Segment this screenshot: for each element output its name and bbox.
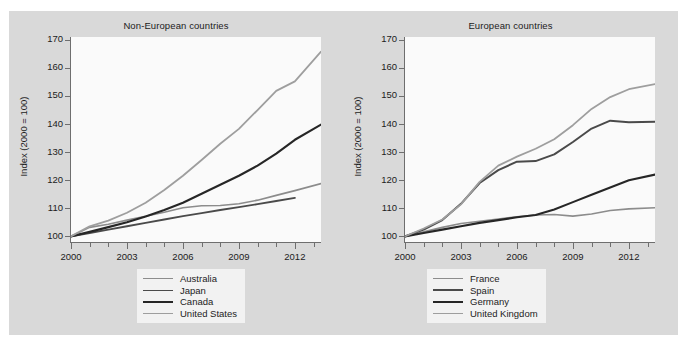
x-axis-tick [202, 243, 203, 247]
y-axis-tick-label: 100 [29, 230, 63, 241]
y-axis-tick-label: 150 [29, 89, 63, 100]
plot-lines [71, 37, 321, 242]
y-axis-tick [65, 68, 70, 69]
x-axis-tick [424, 243, 425, 247]
y-axis-tick-label: 150 [363, 89, 397, 100]
x-axis-tick-label: 2012 [284, 251, 305, 262]
x-axis-tick [164, 243, 165, 247]
y-axis-line [70, 37, 71, 242]
y-axis-tick [65, 124, 70, 125]
x-axis-tick-label: 2000 [60, 251, 81, 262]
y-axis-tick-label: 120 [363, 174, 397, 185]
legend-swatch-icon [433, 313, 463, 314]
y-axis-tick [399, 236, 404, 237]
legend-item[interactable]: Spain [433, 285, 538, 297]
series-line [405, 208, 655, 237]
y-axis-tick-label: 140 [363, 118, 397, 129]
x-axis-tick [648, 243, 649, 247]
y-axis-tick [399, 208, 404, 209]
x-axis-tick [554, 243, 555, 247]
series-line [405, 84, 655, 236]
y-axis-tick [399, 68, 404, 69]
x-axis-tick-label: 2009 [228, 251, 249, 262]
plot-area [71, 37, 321, 242]
y-axis-tick [399, 180, 404, 181]
x-axis-tick-label: 2003 [450, 251, 471, 262]
y-axis-labels: 100110120130140150160170 [359, 11, 397, 271]
legend-swatch-icon [143, 290, 173, 291]
y-axis-tick-label: 130 [363, 146, 397, 157]
x-axis-tick-label: 2000 [394, 251, 415, 262]
x-axis-tick [517, 243, 518, 249]
legend-label: Australia [180, 273, 217, 284]
legend-item[interactable]: United Kingdom [433, 308, 538, 320]
y-axis-tick [399, 124, 404, 125]
x-axis-tick-label: 2006 [172, 251, 193, 262]
x-axis-tick [90, 243, 91, 247]
x-axis-tick [258, 243, 259, 247]
y-axis-tick [65, 236, 70, 237]
y-axis-tick-label: 160 [363, 61, 397, 72]
legend-swatch-icon [143, 278, 173, 279]
legend-label: France [470, 273, 500, 284]
legend-swatch-icon [433, 301, 463, 303]
legend-label: Canada [180, 296, 213, 307]
y-axis-labels: 100110120130140150160170 [25, 11, 63, 271]
x-axis-tick [592, 243, 593, 247]
legend-item[interactable]: Japan [143, 285, 237, 297]
x-axis-tick [108, 243, 109, 247]
legend: FranceSpainGermanyUnited Kingdom [427, 269, 546, 323]
chart-panel-european: European countries Index (2000 = 100) 10… [343, 11, 678, 335]
legend: AustraliaJapanCanadaUnited States [137, 269, 245, 323]
x-axis-tick [480, 243, 481, 247]
legend-label: Spain [470, 285, 494, 296]
y-axis-tick-label: 140 [29, 118, 63, 129]
figure-container: Non-European countries Index (2000 = 100… [9, 11, 678, 335]
x-axis-tick [610, 243, 611, 247]
legend-label: Japan [180, 285, 206, 296]
legend-item[interactable]: United States [143, 308, 237, 320]
y-axis-tick-label: 130 [29, 146, 63, 157]
y-axis-line [404, 37, 405, 242]
y-axis-tick [65, 40, 70, 41]
series-line [71, 52, 321, 237]
legend-item[interactable]: Australia [143, 273, 237, 285]
legend-swatch-icon [143, 301, 173, 303]
y-axis-tick [399, 40, 404, 41]
legend-swatch-icon [143, 313, 173, 314]
x-axis-tick [442, 243, 443, 247]
x-axis-tick [536, 243, 537, 247]
y-axis-tick-label: 110 [363, 202, 397, 213]
x-axis-tick [146, 243, 147, 247]
x-axis-tick [314, 243, 315, 247]
y-axis-tick [65, 96, 70, 97]
x-axis-tick [239, 243, 240, 249]
x-axis-tick [183, 243, 184, 249]
legend-label: United States [180, 308, 237, 319]
legend-item[interactable]: France [433, 273, 538, 285]
x-axis-tick [573, 243, 574, 249]
legend-item[interactable]: Germany [433, 296, 538, 308]
series-line [71, 184, 321, 237]
legend-swatch-icon [433, 278, 463, 279]
plot-area [405, 37, 655, 242]
x-axis-tick [461, 243, 462, 249]
y-axis-tick-label: 120 [29, 174, 63, 185]
y-axis-tick [399, 96, 404, 97]
x-axis-tick [127, 243, 128, 249]
y-axis-tick-label: 170 [29, 33, 63, 44]
y-axis-tick-label: 110 [29, 202, 63, 213]
legend-label: Germany [470, 296, 509, 307]
legend-label: United Kingdom [470, 308, 538, 319]
x-axis-tick [498, 243, 499, 247]
y-axis-tick [65, 208, 70, 209]
x-axis-tick [220, 243, 221, 247]
chart-panel-non-european: Non-European countries Index (2000 = 100… [9, 11, 343, 335]
y-axis-tick [399, 152, 404, 153]
y-axis-tick-label: 100 [363, 230, 397, 241]
x-axis-tick-label: 2012 [618, 251, 639, 262]
legend-swatch-icon [433, 289, 463, 291]
y-axis-tick [65, 152, 70, 153]
legend-item[interactable]: Canada [143, 296, 237, 308]
y-axis-tick [65, 180, 70, 181]
